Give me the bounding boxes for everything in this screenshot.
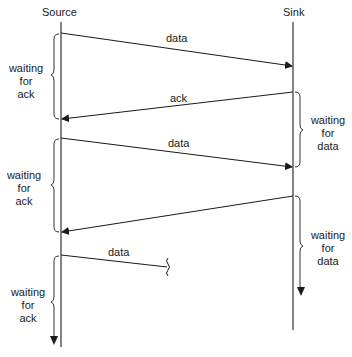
source-wait-brace-1 bbox=[51, 34, 59, 119]
sink-wait-bracket-2 bbox=[295, 196, 303, 288]
sink-wait-label-2: waiting for data bbox=[308, 229, 348, 268]
message-label-ack-1: ack bbox=[170, 92, 187, 105]
message-ack-2 bbox=[62, 196, 293, 232]
sequence-diagram bbox=[0, 0, 352, 357]
sink-wait-label-1: waiting for data bbox=[308, 114, 348, 153]
source-wait-label-1: waiting for ack bbox=[6, 62, 46, 101]
sink-wait-brace-1 bbox=[295, 92, 303, 167]
message-label-data-2: data bbox=[168, 137, 189, 150]
source-wait-label-3: waiting for ack bbox=[8, 286, 48, 325]
source-wait-arrowhead-icon bbox=[50, 336, 58, 345]
sink-label: Sink bbox=[283, 6, 304, 19]
source-wait-brace-2 bbox=[51, 139, 59, 232]
message-label-data-3: data bbox=[108, 246, 129, 259]
sink-wait-arrowhead-icon bbox=[297, 287, 305, 296]
source-wait-label-2: waiting for ack bbox=[4, 169, 44, 208]
message-label-data-1: data bbox=[166, 32, 187, 45]
source-wait-bracket-3 bbox=[51, 256, 59, 337]
source-label: Source bbox=[42, 6, 77, 19]
